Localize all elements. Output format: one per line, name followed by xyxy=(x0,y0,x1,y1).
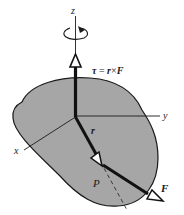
torque-eq-F: F xyxy=(116,65,124,76)
F-vector-label: F xyxy=(160,182,169,194)
x-axis-label: x xyxy=(13,145,19,156)
r-vector-label: r xyxy=(91,125,95,136)
torque-equation: τ = r×F xyxy=(92,65,124,76)
torque-eq-equals: = xyxy=(96,65,107,76)
z-axis-label: z xyxy=(70,5,75,16)
torque-diagram: z y x τ = r×F r F P xyxy=(0,0,184,215)
y-axis-label: y xyxy=(162,110,168,121)
point-P-label: P xyxy=(92,177,100,189)
torque-arrowhead-icon xyxy=(70,54,81,67)
